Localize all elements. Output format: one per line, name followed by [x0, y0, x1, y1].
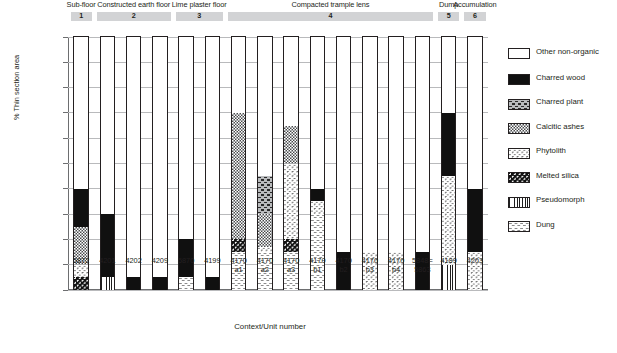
bar-segment	[257, 214, 273, 247]
group-header-number: 5	[438, 11, 459, 21]
bar-top-cap	[100, 36, 116, 37]
y-axis-tick	[63, 290, 68, 291]
bar-top-cap	[152, 36, 168, 37]
x-axis-label: 4170 b2	[331, 256, 357, 274]
stacked-bar[interactable]	[283, 37, 299, 290]
group-header-number: 6	[464, 11, 485, 21]
bar-segment	[231, 239, 247, 252]
bar-segment	[467, 189, 483, 252]
y-axis-tick	[63, 163, 68, 164]
bar-top-cap	[310, 36, 326, 37]
bar-segment	[388, 37, 404, 252]
legend-item[interactable]: Melted silica	[508, 172, 617, 194]
bar-segment	[73, 277, 89, 290]
x-axis-label: 4202	[121, 256, 147, 265]
y-axis-tick	[63, 138, 68, 139]
stacked-bar[interactable]	[205, 37, 221, 290]
stacked-bar[interactable]	[362, 37, 378, 290]
bar-segment	[257, 247, 273, 252]
bar-segment	[441, 113, 457, 176]
bar-top-cap	[205, 36, 221, 37]
group-header-band: Sub-floor1Constructed earth floor2Lime p…	[0, 0, 617, 30]
bar-segment	[441, 265, 457, 290]
stacked-bar[interactable]	[73, 37, 89, 290]
legend-item[interactable]: Charred plant	[508, 99, 617, 121]
x-axis-title: Context/Unit number	[0, 322, 540, 331]
legend-label: Charred plant	[536, 97, 617, 107]
stacked-bar[interactable]	[100, 37, 116, 290]
legend-item[interactable]: Phytolith	[508, 148, 617, 170]
legend-item[interactable]: Dung	[508, 221, 617, 243]
bar-segment	[362, 37, 378, 252]
group-header-number: 2	[97, 11, 171, 21]
x-axis-label: 5870	[173, 256, 199, 265]
y-axis-tick	[63, 112, 68, 113]
stacked-bar[interactable]	[441, 37, 457, 290]
bar-top-cap	[388, 36, 404, 37]
bar-segment	[178, 277, 194, 290]
bar-segment	[100, 277, 116, 290]
group-header: Sub-floor1	[71, 0, 92, 30]
y-axis-tick	[63, 188, 68, 189]
legend-item[interactable]: Pseudomorph	[508, 197, 617, 219]
stacked-bar[interactable]	[310, 37, 326, 290]
figure-root: Sub-floor1Constructed earth floor2Lime p…	[0, 0, 617, 353]
bar-segment	[467, 37, 483, 189]
stacked-bar[interactable]	[231, 37, 247, 290]
group-header: Compacted trample lens4	[228, 0, 433, 30]
bar-segment	[231, 37, 247, 113]
legend-label: Pseudomorph	[536, 195, 617, 205]
stacked-bar[interactable]	[415, 37, 431, 290]
legend-item[interactable]: Charred wood	[508, 74, 617, 96]
bar-segment	[441, 37, 457, 113]
x-axis-label: 4170 b4	[383, 256, 409, 274]
stacked-bar[interactable]	[178, 37, 194, 290]
group-header: Accumulation6	[464, 0, 485, 30]
group-header-number: 3	[176, 11, 224, 21]
group-header-label: Constructed earth floor	[97, 0, 170, 9]
bar-segment	[441, 176, 457, 265]
bar-segment	[100, 214, 116, 277]
bar-segment	[205, 37, 221, 277]
group-header: Lime plaster floor3	[176, 0, 224, 30]
stacked-bar[interactable]	[152, 37, 168, 290]
bar-segment	[205, 277, 221, 290]
stacked-bar[interactable]	[467, 37, 483, 290]
bar-segment	[310, 37, 326, 189]
legend-swatch	[508, 99, 530, 110]
bar-top-cap	[467, 36, 483, 37]
x-axis-label: 4203	[462, 256, 488, 265]
bar-segment	[415, 37, 431, 252]
x-axis-label: 4170 a1	[226, 256, 252, 274]
stacked-bar[interactable]	[388, 37, 404, 290]
legend-label: Other non-organic	[536, 47, 617, 57]
bar-segment	[336, 37, 352, 252]
legend-swatch	[508, 197, 530, 208]
x-axis-label: 4189	[436, 256, 462, 265]
bar-top-cap	[231, 36, 247, 37]
bar-top-cap	[336, 36, 352, 37]
stacked-bar[interactable]	[257, 37, 273, 290]
x-axis-label: 5872	[68, 256, 94, 265]
x-axis-label: 4170 a3	[278, 256, 304, 274]
bar-segment	[310, 214, 326, 290]
bar-segment	[257, 37, 273, 176]
legend-swatch	[508, 123, 530, 134]
bar-segment	[283, 126, 299, 164]
bar-segment	[310, 201, 326, 214]
y-axis-tick	[63, 239, 68, 240]
group-header-label: Lime plaster floor	[172, 0, 227, 9]
legend-item[interactable]: Calcitic ashes	[508, 123, 617, 145]
bar-segment	[257, 176, 273, 214]
y-axis-tick	[63, 87, 68, 88]
bar-segment	[283, 37, 299, 126]
stacked-bar[interactable]	[126, 37, 142, 290]
x-axis-label: 4201	[94, 256, 120, 265]
legend-item[interactable]: Other non-organic	[508, 48, 617, 70]
y-axis-title: % Thin section area	[12, 55, 21, 120]
x-axis-label: 5848= 5863	[409, 256, 435, 274]
legend-label: Phytolith	[536, 146, 617, 156]
stacked-bar[interactable]	[336, 37, 352, 290]
bar-segment	[126, 37, 142, 277]
legend-swatch	[508, 148, 530, 159]
